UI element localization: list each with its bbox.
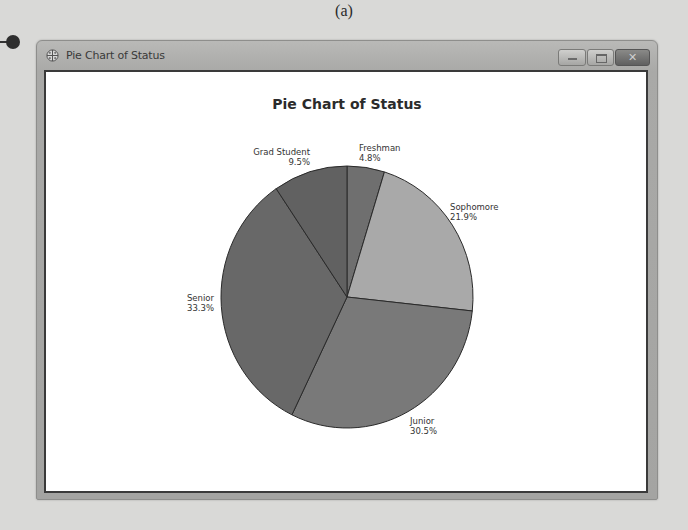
label-senior-name: Senior — [187, 293, 215, 303]
chart-title: Pie Chart of Status — [272, 96, 421, 112]
label-freshman-name: Freshman — [359, 143, 401, 153]
minimize-icon — [568, 58, 577, 60]
chart-window: Pie Chart of Status ✕ Pie Chart of Statu… — [36, 40, 658, 500]
window-titlebar[interactable]: Pie Chart of Status ✕ — [37, 41, 657, 69]
minimize-button[interactable] — [558, 49, 586, 66]
pie-slices — [221, 166, 473, 428]
label-grad-name: Grad Student — [253, 147, 311, 157]
label-senior-pct: 33.3% — [187, 303, 214, 313]
close-button[interactable]: ✕ — [615, 49, 650, 66]
figure-label: (a) — [0, 2, 688, 20]
label-junior-pct: 30.5% — [410, 426, 437, 436]
maximize-icon — [596, 54, 607, 63]
label-sophomore-pct: 21.9% — [450, 212, 477, 222]
label-junior-name: Junior — [409, 416, 435, 426]
window-title: Pie Chart of Status — [66, 49, 165, 62]
close-icon: ✕ — [616, 50, 649, 65]
bullet-dot — [6, 35, 20, 49]
label-freshman-pct: 4.8% — [359, 153, 381, 163]
pie-chart: Pie Chart of Status Freshman 4.8% Sophom… — [46, 72, 646, 491]
label-grad-pct: 9.5% — [288, 157, 310, 167]
maximize-button[interactable] — [587, 49, 614, 66]
globe-icon — [46, 49, 59, 62]
chart-area: Pie Chart of Status Freshman 4.8% Sophom… — [44, 70, 648, 493]
label-sophomore-name: Sophomore — [450, 202, 499, 212]
